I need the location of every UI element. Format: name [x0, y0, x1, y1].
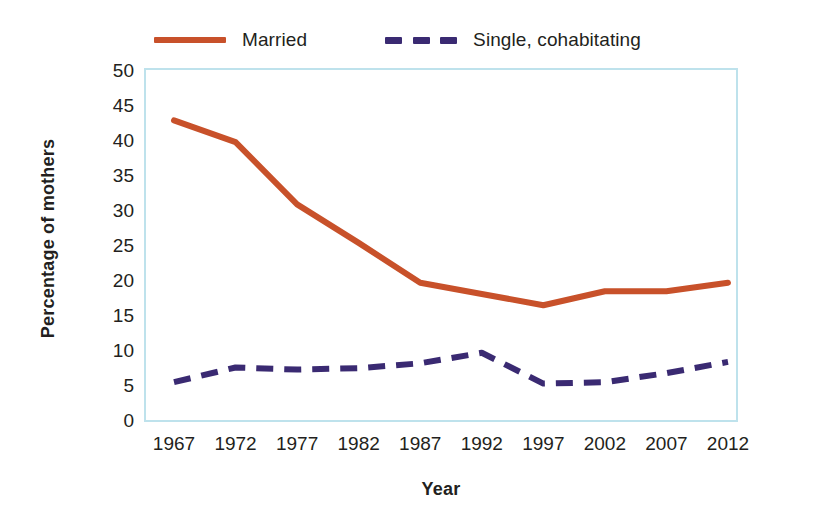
- x-axis-tick-label: 1972: [214, 434, 256, 453]
- x-axis-tick-label: 1987: [399, 434, 441, 453]
- x-axis-tick-label: 2007: [645, 434, 687, 453]
- y-axis-tick-label: 5: [86, 376, 134, 395]
- y-axis-tick-label: 35: [86, 166, 134, 185]
- y-axis-tick-label: 50: [86, 61, 134, 80]
- legend-item-married: Married: [154, 29, 307, 51]
- y-axis-tick-label: 10: [86, 341, 134, 360]
- chart-legend: Married Single, cohabitating: [150, 24, 710, 56]
- x-axis-tick-label: 1992: [461, 434, 503, 453]
- legend-solid-line-icon: [154, 37, 226, 43]
- series-line-single-cohabitating: [174, 353, 728, 384]
- y-axis-tick-labels: 05101520253035404550: [86, 70, 134, 420]
- chart-figure: Married Single, cohabitating Percentage …: [0, 0, 833, 519]
- legend-label-married: Married: [242, 29, 307, 51]
- y-axis-tick-label: 15: [86, 306, 134, 325]
- y-axis-tick-label: 25: [86, 236, 134, 255]
- x-axis-tick-labels: 1967197219771982198719921997200220072012: [144, 434, 738, 460]
- y-axis-tick-label: 0: [86, 411, 134, 430]
- x-axis-tick-label: 1982: [338, 434, 380, 453]
- series-line-married: [174, 120, 728, 305]
- legend-label-single-cohabitating: Single, cohabitating: [473, 29, 641, 51]
- x-axis-tick-label: 2002: [584, 434, 626, 453]
- x-axis-title: Year: [144, 479, 738, 500]
- x-axis-tick-label: 1977: [276, 434, 318, 453]
- y-axis-tick-label: 45: [86, 96, 134, 115]
- y-axis-tick-label: 20: [86, 271, 134, 290]
- legend-item-single-cohabitating: Single, cohabitating: [385, 29, 641, 51]
- plot-lines: [144, 68, 738, 422]
- legend-dashed-line-icon: [385, 37, 457, 44]
- y-axis-tick-label: 40: [86, 131, 134, 150]
- x-axis-tick-label: 1967: [153, 434, 195, 453]
- y-axis-title: Percentage of mothers: [38, 119, 59, 359]
- x-axis-tick-label: 2012: [707, 434, 749, 453]
- x-axis-tick-label: 1997: [522, 434, 564, 453]
- y-axis-tick-label: 30: [86, 201, 134, 220]
